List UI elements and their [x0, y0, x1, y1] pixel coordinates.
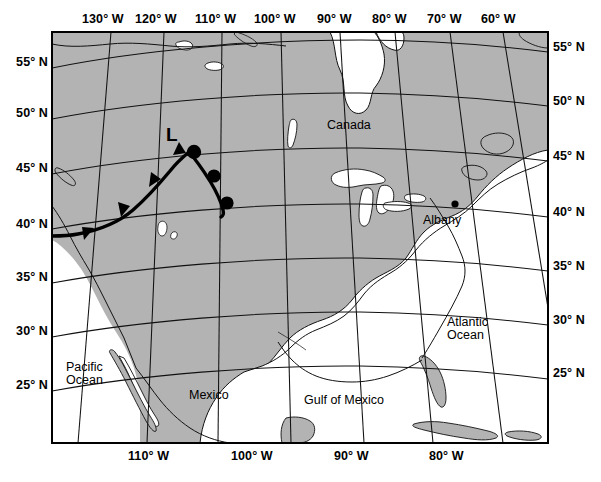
weather-map-figure: 130° W 120° W 110° W 100° W 90° W 80° W … — [0, 0, 601, 482]
label-atlantic-line2: Ocean — [447, 329, 488, 342]
lon-label-80w-bottom: 80° W — [429, 449, 464, 463]
lat-label-50n-left: 50° N — [0, 106, 48, 120]
lon-label-90w-top: 90° W — [317, 12, 352, 26]
warm-front-bump-2 — [207, 169, 220, 182]
lon-label-90w-bottom: 90° W — [334, 449, 369, 463]
lat-label-55n-left: 55° N — [0, 55, 48, 69]
lat-label-40n-left: 40° N — [0, 217, 48, 231]
label-mexico: Mexico — [189, 389, 229, 402]
newfoundland — [481, 133, 514, 154]
great-slave-lake — [205, 62, 223, 70]
lake-utah-small — [171, 232, 178, 239]
albany-city-dot — [451, 200, 458, 207]
label-albany: Albany — [423, 214, 461, 227]
lake-ontario — [405, 194, 426, 202]
lon-label-110w-bottom: 110° W — [128, 449, 169, 463]
lat-label-40n-right: 40° N — [553, 205, 585, 219]
low-pressure-label: L — [166, 124, 178, 146]
lat-label-35n-left: 35° N — [0, 270, 48, 284]
lat-label-45n-left: 45° N — [0, 161, 48, 175]
lon-label-70w-top: 70° W — [427, 12, 462, 26]
lat-label-50n-right: 50° N — [553, 94, 585, 108]
label-canada: Canada — [327, 119, 371, 132]
lat-label-30n-left: 30° N — [0, 324, 48, 338]
lon-label-80w-top: 80° W — [372, 12, 407, 26]
lat-label-30n-right: 30° N — [553, 313, 585, 327]
low-center-dot — [187, 150, 191, 154]
lat-label-45n-right: 45° N — [553, 149, 585, 163]
warm-front-bump-3 — [220, 196, 233, 209]
label-atlantic-ocean: Atlantic Ocean — [447, 316, 488, 342]
label-pacific-ocean: Pacific Ocean — [66, 361, 103, 387]
lake-erie — [383, 202, 411, 212]
lat-label-55n-right: 55° N — [553, 40, 585, 54]
lat-label-35n-right: 35° N — [553, 259, 585, 273]
lon-label-100w-bottom: 100° W — [231, 449, 273, 463]
lat-label-25n-right: 25° N — [553, 366, 585, 380]
yucatan — [281, 417, 315, 443]
lon-label-130w-top: 130° W — [82, 12, 124, 26]
lon-label-120w-top: 120° W — [135, 12, 177, 26]
label-pacific-line2: Ocean — [66, 374, 103, 387]
lon-label-60w-top: 60° W — [481, 12, 516, 26]
great-salt-lake — [158, 221, 167, 236]
lon-label-100w-top: 100° W — [254, 12, 296, 26]
lon-label-110w-top: 110° W — [195, 12, 236, 26]
map-canvas — [0, 0, 601, 482]
lat-label-25n-left: 25° N — [0, 378, 48, 392]
label-gulf-of-mexico: Gulf of Mexico — [304, 394, 384, 407]
